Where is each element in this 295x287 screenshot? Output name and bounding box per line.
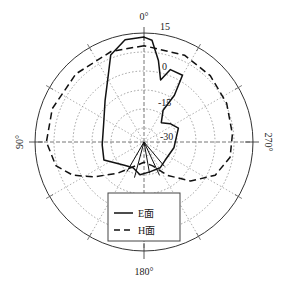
radial-label-15: 15: [160, 21, 170, 32]
e-plane-backlobe: [127, 142, 144, 172]
radial-label-minus15: -15: [158, 97, 171, 108]
e-plane-backlobe: [144, 142, 164, 166]
radial-label-minus30: -30: [160, 131, 173, 142]
angle-label-0: 0°: [140, 11, 149, 22]
e-plane-backlobe: [144, 142, 150, 173]
angle-label-180: 180°: [135, 266, 154, 277]
polar-chart: 0° 180° 90° 270° 15 0 -15 -30 E面 H面: [0, 0, 295, 287]
legend-h-label: H面: [138, 225, 155, 236]
angle-label-270: 270°: [263, 133, 274, 152]
radial-label-0: 0: [162, 61, 167, 72]
legend: E面 H面: [108, 193, 180, 241]
legend-e-label: E面: [138, 208, 154, 219]
angle-label-90: 90°: [14, 135, 25, 149]
e-plane-backlobe: [134, 142, 144, 178]
